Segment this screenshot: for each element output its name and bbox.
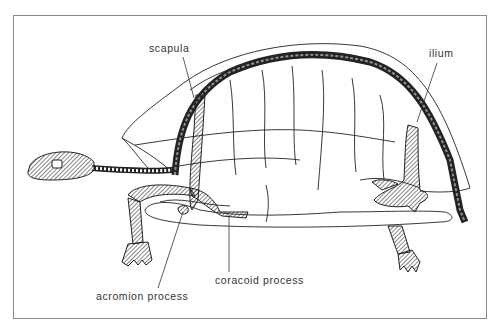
acromion-leader	[158, 212, 183, 288]
forearm	[128, 198, 143, 244]
front-foot	[122, 242, 152, 266]
label-acromion-process: acromion process	[96, 290, 188, 302]
label-ilium: ilium	[429, 47, 454, 59]
humerus	[128, 185, 195, 202]
label-coracoid-process: coracoid process	[215, 274, 304, 286]
ilium-bone	[374, 125, 428, 212]
hind-leg	[388, 226, 410, 254]
label-scapula: scapula	[149, 42, 189, 54]
hind-foot	[398, 250, 420, 272]
